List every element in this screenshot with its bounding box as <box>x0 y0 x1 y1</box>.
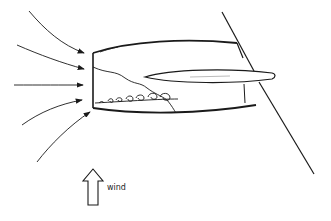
nacelle-diagram <box>0 0 331 221</box>
nacelle <box>93 12 314 174</box>
streamline-5 <box>37 112 90 162</box>
wind-label: wind <box>107 183 126 192</box>
wind-arrow-icon <box>83 169 103 205</box>
cowl-top <box>93 41 237 53</box>
streamline-4 <box>22 100 82 125</box>
vortices <box>99 93 170 103</box>
diagram-canvas: wind <box>0 0 331 221</box>
wing-leading-edge-lower <box>259 82 314 174</box>
streamline-1 <box>29 11 84 53</box>
airflow-streamlines <box>14 11 90 162</box>
